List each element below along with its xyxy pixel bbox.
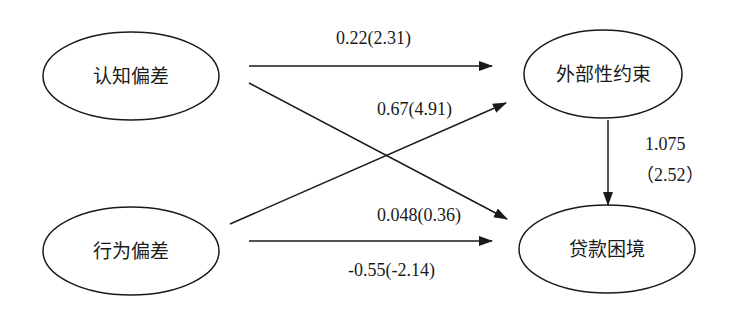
node-behavioral-bias: 行为偏差 — [43, 207, 219, 295]
node-label-cognitive-bias: 认知偏差 — [93, 65, 169, 87]
edge-label-cognitive-to-external: 0.22(2.31) — [336, 28, 411, 49]
edge-cognitive-to-external: 0.22(2.31) — [249, 28, 492, 66]
edge-label-external-to-loan-coef: 1.075 — [645, 134, 686, 154]
edge-label-behavioral-to-loan: -0.55(-2.14) — [348, 260, 435, 281]
edge-label-external-to-loan-t: （2.52） — [636, 165, 704, 185]
path-diagram: 认知偏差 行为偏差 外部性约束 贷款困境 0.22(2.31) 0.67(4.9… — [0, 0, 734, 318]
node-external-constraint: 外部性约束 — [524, 30, 682, 118]
node-label-loan-dilemma: 贷款困境 — [569, 238, 645, 260]
edge-label-cognitive-to-loan: 0.048(0.36) — [377, 205, 461, 226]
edge-label-behavioral-to-external: 0.67(4.91) — [377, 99, 452, 120]
edge-external-to-loan: 1.075 （2.52） — [608, 120, 704, 205]
arrow-icon — [230, 103, 506, 224]
edge-behavioral-to-loan: -0.55(-2.14) — [249, 241, 492, 281]
node-label-behavioral-bias: 行为偏差 — [93, 240, 169, 262]
node-loan-dilemma: 贷款困境 — [519, 205, 695, 293]
node-label-external-constraint: 外部性约束 — [556, 63, 651, 85]
edge-behavioral-to-external: 0.67(4.91) — [230, 99, 506, 224]
node-cognitive-bias: 认知偏差 — [43, 32, 219, 120]
